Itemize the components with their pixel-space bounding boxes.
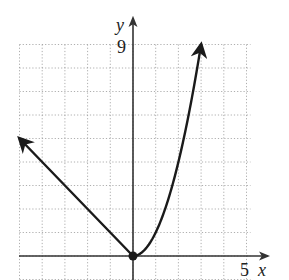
y-tick-label: 9 bbox=[117, 37, 126, 57]
graph: y 9 5 x bbox=[0, 0, 289, 280]
left-branch-line bbox=[20, 139, 134, 257]
right-branch-curve bbox=[133, 45, 201, 257]
origin-point bbox=[129, 252, 138, 261]
grid-lines bbox=[20, 45, 251, 280]
axes bbox=[19, 18, 268, 280]
y-axis-label: y bbox=[114, 15, 124, 35]
x-axis-label: x bbox=[257, 260, 266, 280]
x-tick-label: 5 bbox=[240, 260, 249, 280]
